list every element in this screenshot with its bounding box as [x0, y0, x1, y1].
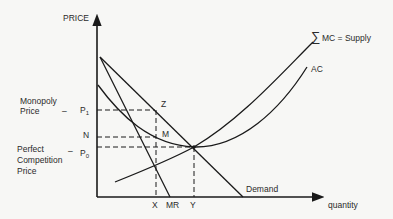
monopoly-price-label-1: Monopoly: [20, 96, 57, 106]
sigma-symbol: ∑: [311, 30, 320, 44]
perfect-dash: –: [68, 146, 73, 156]
monopoly-dash: –: [62, 106, 67, 116]
p1-label: P1: [80, 105, 89, 116]
y-axis-label: PRICE: [63, 13, 89, 23]
demand-curve: [100, 57, 243, 197]
monopoly-price-label-2: Price: [20, 106, 39, 116]
demand-label: Demand: [246, 184, 278, 194]
quantity-y-label: Y: [190, 200, 196, 210]
ac-label: AC: [311, 64, 323, 74]
perfect-competition-label-3: Price: [17, 166, 36, 176]
quantity-x-label: X: [152, 200, 158, 210]
p0-label: P0: [80, 148, 89, 159]
perfect-competition-label-1: Perfect: [17, 144, 44, 154]
point-m-label: M: [162, 129, 169, 139]
point-z-label: Z: [161, 99, 166, 109]
marginal-revenue-curve: [100, 57, 170, 197]
supply-curve: [115, 42, 313, 182]
supply-label: MC = Supply: [322, 33, 371, 43]
n-label: N: [83, 130, 89, 140]
monopoly-vs-competition-diagram: PRICE quantity Monopoly Price – P1 N Per…: [0, 0, 393, 219]
equilibrium-point: [192, 145, 196, 149]
mr-label: MR: [166, 200, 179, 210]
x-axis-label: quantity: [328, 200, 358, 210]
perfect-competition-label-2: Competition: [17, 155, 62, 165]
